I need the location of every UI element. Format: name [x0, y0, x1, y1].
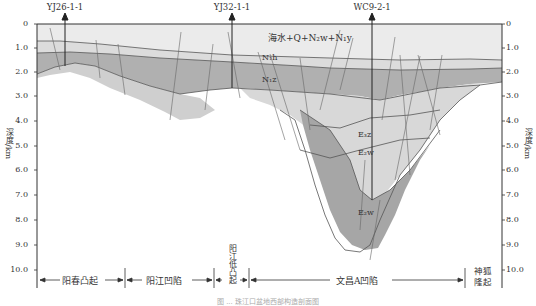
- depth-tick-left: 10.0: [2, 265, 28, 274]
- cross-section-diagram: [0, 0, 536, 306]
- depth-tick-left: 8.0: [2, 215, 28, 224]
- depth-tick-right: 7.0: [506, 190, 519, 199]
- axis-title-left: 深度/km: [3, 128, 14, 159]
- depth-tick-left: 2.0: [2, 67, 28, 76]
- depth-tick-right: 1.0: [506, 43, 519, 52]
- figure-caption: 图 ... 珠江口盆地西部构造剖面图: [0, 296, 536, 306]
- depth-tick-right: 9.0: [506, 240, 519, 249]
- depth-tick-left: 6.0: [2, 165, 28, 174]
- layer-label-top: 海水+Q+N₂w+N₁y: [268, 31, 352, 44]
- depth-tick-left: 7.0: [2, 190, 28, 199]
- depth-tick-right: 0: [506, 19, 511, 28]
- well-label-wc9: WC9-2-1: [353, 2, 390, 12]
- well-label-yj32: YJ32-1-1: [214, 2, 250, 12]
- unit-wenchang-a-sag: 文昌A凹陷: [336, 274, 379, 287]
- depth-tick-right: 10.0: [506, 265, 524, 274]
- layer-label-n1z: N₁z: [262, 75, 276, 84]
- unit-yangjiang-low-uplift: 阳江低凸起: [227, 244, 236, 284]
- layer-label-n1h: N₁h: [262, 53, 277, 62]
- depth-tick-left: 1.0: [2, 43, 28, 52]
- unit-shenhu-uplift: 神狐隆起: [470, 266, 496, 288]
- depth-tick-right: 4.0: [506, 116, 519, 125]
- depth-tick-left: 0: [2, 19, 28, 28]
- layer-label-e3z: E₃z: [358, 130, 371, 139]
- unit-yangjiang-sag: 阳江凹陷: [146, 274, 182, 287]
- axis-title-right: 深度/km: [522, 128, 533, 159]
- depth-tick-left: 4.0: [2, 116, 28, 125]
- depth-tick-right: 2.0: [506, 67, 519, 76]
- depth-tick-left: 9.0: [2, 240, 28, 249]
- layer-label-e3w: E₂w: [358, 148, 374, 157]
- depth-tick-left: 3.0: [2, 91, 28, 100]
- layer-label-e2w: E₂w: [358, 208, 374, 217]
- depth-tick-right: 3.0: [506, 91, 519, 100]
- depth-tick-right: 5.0: [506, 141, 519, 150]
- depth-tick-right: 6.0: [506, 165, 519, 174]
- well-label-yj26: YJ26-1-1: [47, 2, 83, 12]
- unit-yangchun-uplift: 阳春凸起: [62, 274, 98, 287]
- depth-tick-right: 8.0: [506, 215, 519, 224]
